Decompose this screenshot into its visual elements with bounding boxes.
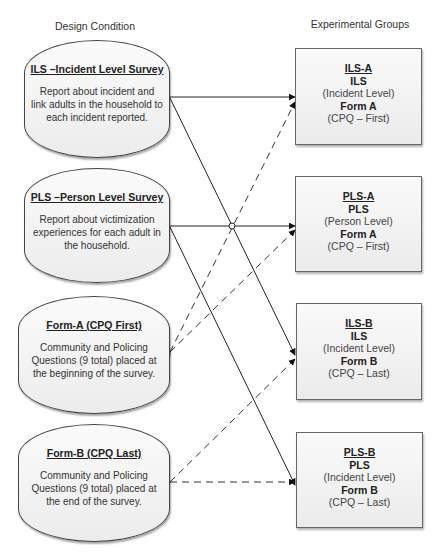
condition-title: Form-B (CPQ Last) [19, 447, 169, 459]
group-survey: ILS [297, 330, 421, 343]
group-form: Form B [297, 484, 422, 497]
group-level: (Incident Level) [297, 342, 421, 355]
group-level: (Person Level) [296, 215, 421, 228]
group-code: ILS-B [297, 317, 421, 330]
line-hop [229, 223, 235, 229]
condition-title: PLS –Person Level Survey [25, 191, 169, 203]
group-form: Form A [296, 228, 421, 241]
condition-description: Community and Policing Questions (9 tota… [19, 341, 169, 380]
condition-title: Form-A (CPQ First) [19, 319, 169, 331]
group-survey: PLS [297, 459, 422, 472]
condition-ils: ILS –Incident Level Survey Report about … [24, 40, 170, 158]
line-forma-to-plsa [170, 230, 295, 352]
group-level: (Incident Level) [296, 87, 421, 100]
group-cpq: (CPQ – Last) [297, 496, 422, 509]
condition-form-b: Form-B (CPQ Last) Community and Policing… [18, 424, 170, 542]
line-formb-to-ilsb [170, 359, 295, 482]
group-level: (Incident Level) [297, 471, 422, 484]
group-cpq: (CPQ – First) [296, 240, 421, 253]
group-pls-a: PLS-A PLS (Person Level) Form A (CPQ – F… [295, 176, 422, 272]
group-form: Form A [296, 100, 421, 113]
group-code: PLS-A [296, 190, 421, 203]
group-code: ILS-A [296, 62, 421, 75]
group-ils-a: ILS-A ILS (Incident Level) Form A (CPQ –… [295, 48, 422, 145]
condition-form-a: Form-A (CPQ First) Community and Policin… [18, 296, 170, 414]
condition-description: Community and Policing Questions (9 tota… [19, 469, 169, 508]
group-cpq: (CPQ – First) [296, 112, 421, 125]
condition-title: ILS –Incident Level Survey [25, 63, 169, 75]
group-pls-b: PLS-B PLS (Incident Level) Form B (CPQ –… [296, 432, 423, 528]
group-survey: PLS [296, 203, 421, 216]
condition-pls: PLS –Person Level Survey Report about vi… [24, 168, 170, 283]
group-form: Form B [297, 355, 421, 368]
line-pls-to-plsb [170, 227, 295, 485]
group-code: PLS-B [297, 446, 422, 459]
group-cpq: (CPQ – Last) [297, 367, 421, 380]
group-ils-b: ILS-B ILS (Incident Level) Form B (CPQ –… [296, 303, 422, 400]
condition-description: Report about incident and link adults in… [25, 85, 169, 124]
condition-description: Report about victimization experiences f… [25, 213, 169, 252]
group-survey: ILS [296, 75, 421, 88]
